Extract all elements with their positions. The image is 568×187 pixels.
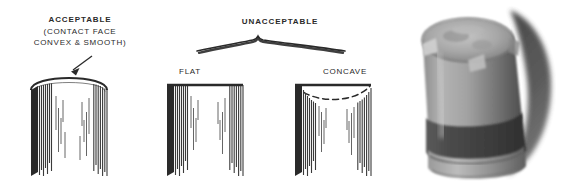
flat-left-inner-striations [191, 96, 198, 150]
unacceptable-brace-icon [197, 36, 345, 53]
convex-left-wall [31, 86, 38, 176]
diagram-convex [31, 56, 107, 176]
technical-figure: ACCEPTABLE (CONTACT FACE CONVEX & SMOOTH… [0, 0, 568, 187]
concave-left-inner-striations [319, 106, 326, 152]
concave-left-striations [304, 90, 316, 176]
photograph-render [398, 0, 568, 187]
concave-left-wall [295, 85, 302, 176]
convex-right-inner-striations [80, 98, 89, 160]
concave-right-striations [358, 88, 371, 176]
concave-right-inner-striations [347, 107, 354, 155]
flat-left-wall [167, 85, 174, 176]
contact-face-photograph [398, 0, 568, 187]
convex-right-striations [94, 84, 107, 176]
diagram-concave [295, 85, 371, 176]
convex-left-inner-striations [56, 96, 65, 158]
flat-right-striations [230, 85, 243, 176]
convex-left-striations [40, 83, 52, 176]
flat-right-inner-striations [218, 98, 225, 154]
flat-left-striations [176, 86, 188, 176]
diagram-flat [167, 85, 243, 176]
convex-arrow-icon [71, 56, 92, 76]
